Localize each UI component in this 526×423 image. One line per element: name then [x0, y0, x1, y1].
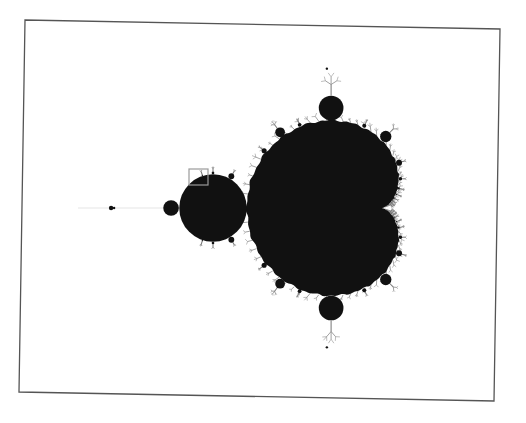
mandelbrot-figure [0, 0, 526, 423]
